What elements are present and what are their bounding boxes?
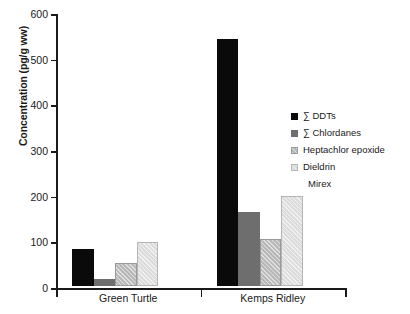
legend-label: ∑ DDTs (303, 111, 336, 121)
legend-item[interactable]: Mirex (291, 176, 409, 192)
y-tick-label: 100 (30, 237, 48, 248)
bar (137, 242, 159, 286)
y-axis-title: Concentration (pg/g ww) (17, 1, 29, 171)
y-tick-label: 600 (30, 9, 48, 20)
bar (115, 263, 137, 286)
bar (238, 212, 260, 286)
legend-swatch-icon (291, 130, 298, 137)
y-tick-mark (51, 242, 56, 244)
legend-swatch-icon (291, 147, 298, 154)
x-axis-category-label: Green Turtle (56, 292, 201, 304)
legend-label: ∑ Chlordanes (303, 128, 361, 138)
legend-swatch-icon (291, 113, 298, 120)
y-tick-label: 400 (30, 100, 48, 111)
legend-item[interactable]: ∑ DDTs (291, 108, 409, 124)
y-tick-label: 200 (30, 191, 48, 202)
chart-legend: ∑ DDTs∑ ChlordanesHeptachlor epoxideDiel… (291, 108, 409, 193)
bar-group (72, 12, 158, 286)
y-tick-label: 0 (42, 283, 48, 294)
bar (72, 249, 94, 286)
y-axis-line (56, 14, 58, 290)
y-tick-mark (51, 60, 56, 62)
y-tick-label: 500 (30, 54, 48, 65)
bar (94, 279, 116, 286)
bar (260, 239, 282, 286)
legend-swatch-icon (291, 164, 298, 171)
legend-item[interactable]: Dieldrin (291, 159, 409, 175)
y-tick-mark (51, 105, 56, 107)
legend-label: Heptachlor epoxide (303, 145, 385, 155)
bar-chart: Concentration (pg/g ww) 0100200300400500… (0, 0, 410, 314)
bar-group (217, 12, 303, 286)
legend-item[interactable]: ∑ Chlordanes (291, 125, 409, 141)
bar (281, 196, 303, 286)
x-axis-category-label: Kemps Ridley (201, 292, 346, 304)
legend-label: Mirex (308, 179, 331, 189)
bar (217, 39, 239, 286)
legend-item[interactable]: Heptachlor epoxide (291, 142, 409, 158)
y-tick-mark (51, 14, 56, 16)
legend-label: Dieldrin (303, 162, 335, 172)
y-tick-label: 300 (30, 146, 48, 157)
x-axis-separator-tick (345, 290, 347, 297)
y-tick-mark (51, 151, 56, 153)
y-tick-mark (51, 197, 56, 199)
